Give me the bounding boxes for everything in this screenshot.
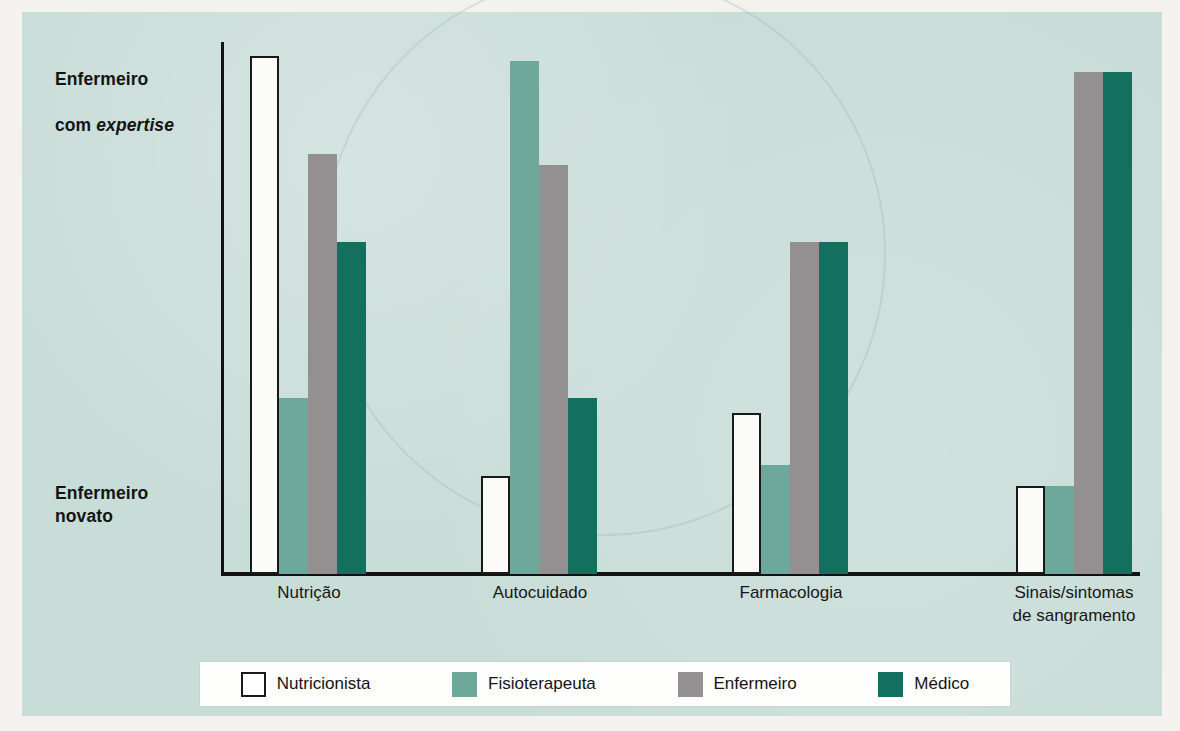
category-label-1: Nutrição <box>199 582 419 605</box>
legend-item-nutricionista: Nutricionista <box>241 672 371 697</box>
bar-chart-plot-area: Enfermeiro com expertise Enfermeiro nova… <box>22 12 1162 716</box>
legend-label: Nutricionista <box>277 674 371 694</box>
legend-swatch-icon-fisioterapeuta <box>452 672 477 697</box>
chart-legend: NutricionistaFisioterapeutaEnfermeiroMéd… <box>200 662 1010 706</box>
legend-label: Fisioterapeuta <box>488 674 596 694</box>
bar-1-enfermeiro <box>308 154 337 574</box>
bar-4-nutricionista <box>1016 486 1045 574</box>
category-label-3: Farmacologia <box>681 582 901 605</box>
legend-item-enfermeiro: Enfermeiro <box>678 672 797 697</box>
bar-1-fisioterapeuta <box>279 398 308 574</box>
bar-1-mdico <box>337 242 366 574</box>
bar-3-fisioterapeuta <box>761 465 790 574</box>
bar-2-fisioterapeuta <box>510 61 539 574</box>
category-label-4: Sinais/sintomas de sangramento <box>964 582 1180 628</box>
scanned-page: Enfermeiro com expertise Enfermeiro nova… <box>0 0 1180 731</box>
bar-2-enfermeiro <box>539 165 568 574</box>
legend-label: Médico <box>914 674 969 694</box>
bar-2-mdico <box>568 398 597 574</box>
legend-swatch-icon-mdico <box>878 672 903 697</box>
bar-3-mdico <box>819 242 848 574</box>
category-label-2: Autocuidado <box>430 582 650 605</box>
legend-swatch-icon-enfermeiro <box>678 672 703 697</box>
bar-4-fisioterapeuta <box>1045 486 1074 574</box>
bar-3-enfermeiro <box>790 242 819 574</box>
figure-panel: Enfermeiro com expertise Enfermeiro nova… <box>22 12 1162 716</box>
bar-4-mdico <box>1103 72 1132 574</box>
bar-3-nutricionista <box>732 413 761 574</box>
legend-label: Enfermeiro <box>714 674 797 694</box>
bars-layer <box>22 12 1162 574</box>
bar-1-nutricionista <box>250 56 279 574</box>
legend-item-fisioterapeuta: Fisioterapeuta <box>452 672 596 697</box>
legend-swatch-icon-nutricionista <box>241 672 266 697</box>
bar-4-enfermeiro <box>1074 72 1103 574</box>
bar-2-nutricionista <box>481 476 510 574</box>
legend-item-mdico: Médico <box>878 672 969 697</box>
